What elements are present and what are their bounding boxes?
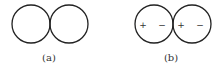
charge-plus-right: + (177, 20, 185, 30)
circle-right-a (50, 5, 88, 43)
figure-label-a: (a) (39, 52, 59, 63)
diagram-canvas: + − + − (0, 0, 221, 70)
charge-minus-right: − (196, 20, 204, 30)
figure-label-b: (b) (161, 52, 181, 63)
charge-plus-left: + (139, 20, 147, 30)
figure-a (12, 5, 88, 43)
charge-minus-left: − (158, 20, 166, 30)
figure-b: + − + − (135, 5, 211, 43)
circle-left-a (12, 5, 50, 43)
